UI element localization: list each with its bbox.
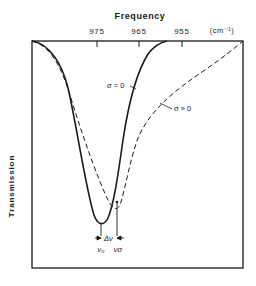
nu-zero-label: ν₀ bbox=[98, 245, 105, 254]
chart-title: Frequency bbox=[115, 11, 166, 21]
curve-intersection-point bbox=[116, 201, 119, 204]
y-axis-label: Transmission bbox=[7, 155, 16, 217]
x-tick-label-955: 955 bbox=[174, 27, 190, 36]
x-unit-label: (cm⁻¹) bbox=[210, 26, 235, 35]
dashed-curve-sigma-large bbox=[32, 41, 243, 209]
delta-nu-label: Δν bbox=[103, 234, 113, 243]
sigma-large-leader-line bbox=[160, 103, 172, 109]
transmission-chart: Frequency 975 965 955 (cm⁻¹) Δν ν₀ νσ σ … bbox=[0, 0, 256, 286]
x-tick-marks bbox=[97, 41, 182, 47]
sigma-zero-annotation: σ = 0 bbox=[107, 81, 124, 90]
solid-curve-sigma-zero bbox=[32, 41, 167, 224]
x-tick-label-965: 965 bbox=[131, 27, 147, 36]
x-tick-label-975: 975 bbox=[89, 27, 105, 36]
sigma-large-annotation: σ » 0 bbox=[174, 104, 191, 113]
nu-sigma-label: νσ bbox=[114, 245, 123, 254]
